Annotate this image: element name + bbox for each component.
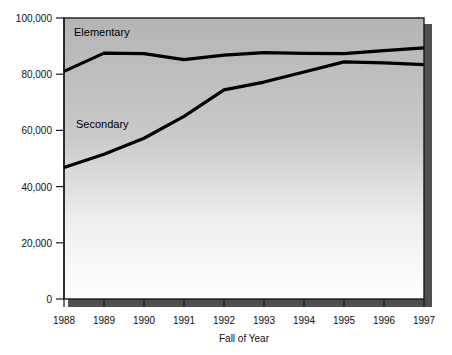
plot-shadow-right	[424, 24, 432, 307]
series-label-elementary: Elementary	[74, 26, 130, 38]
x-tick-label-1995: 1995	[333, 315, 356, 326]
y-tick-label-80000: 80,000	[21, 69, 52, 80]
y-tick-label-20000: 20,000	[21, 238, 52, 249]
x-tick-label-1988: 1988	[53, 315, 76, 326]
plot-background	[64, 18, 424, 299]
x-tick-label-1991: 1991	[173, 315, 196, 326]
x-tick-label-1989: 1989	[93, 315, 116, 326]
plot-shadow-bottom	[68, 299, 432, 307]
chart-container: 100,000 80,000 60,000 40,000 20,000 0 19…	[0, 0, 452, 355]
line-chart: 100,000 80,000 60,000 40,000 20,000 0 19…	[0, 0, 452, 355]
x-tick-label-1997: 1997	[413, 315, 436, 326]
y-tick-label-100000: 100,000	[16, 13, 53, 24]
y-tick-label-40000: 40,000	[21, 182, 52, 193]
x-tick-label-1994: 1994	[293, 315, 316, 326]
x-tick-label-1993: 1993	[253, 315, 276, 326]
y-axis-ticks	[56, 18, 64, 299]
x-tick-label-1992: 1992	[213, 315, 236, 326]
y-tick-label-0: 0	[46, 294, 52, 305]
series-label-secondary: Secondary	[76, 118, 129, 130]
y-tick-label-60000: 60,000	[21, 125, 52, 136]
x-tick-label-1996: 1996	[373, 315, 396, 326]
x-tick-label-1990: 1990	[133, 315, 156, 326]
x-axis-title: Fall of Year	[219, 333, 270, 344]
